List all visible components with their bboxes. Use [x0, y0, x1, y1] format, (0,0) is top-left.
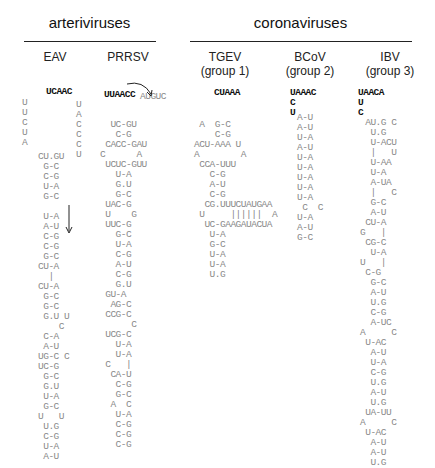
eav-loop-right: U A C C C U: [76, 100, 81, 160]
ibv-stem: AU.G C U.G U-ACU | U U-AA U-A A-UA | C G…: [360, 118, 396, 468]
virus-group: (group 3): [355, 64, 425, 78]
virus-name: BCoV: [275, 50, 345, 64]
virus-group: (group 1): [190, 64, 260, 78]
virus-name: EAV: [30, 50, 80, 64]
label-eav: EAV: [30, 50, 80, 64]
group-title-arteriviruses: arteriviruses: [22, 14, 157, 31]
bcov-stem: A-U A-U U-A A-U U-A U-A U-A U-A U-A C C …: [297, 113, 323, 243]
virus-name: PRRSV: [98, 50, 158, 64]
tgev-stem: A G-C C-G ACU-AAA U A A CCA-UUU C-G A-U …: [194, 120, 277, 280]
label-prrsv: PRRSV: [98, 50, 158, 64]
eav-loop-conserved: UCAAC: [46, 87, 72, 97]
label-ibv: IBV (group 3): [355, 50, 425, 78]
prrsv-arrow-icon: [125, 80, 155, 100]
eav-arrow-icon: [66, 205, 72, 235]
divider-coronaviruses: [190, 41, 412, 42]
tgev-loop-conserved: CUAAA: [214, 88, 240, 98]
divider-arteriviruses: [24, 41, 156, 42]
prrsv-stem: UC-GU C-G CACC-GAU C A UCUC-GUU U-A G.U …: [100, 120, 147, 450]
ibv-loop-conserved: UAACA U C: [358, 88, 384, 118]
eav-loop-left: U U C U A: [22, 98, 27, 148]
virus-name: TGEV: [190, 50, 260, 64]
label-tgev: TGEV (group 1): [190, 50, 260, 78]
virus-name: IBV: [355, 50, 425, 64]
eav-stem: CU.GU G-C C-G U-A G-C U-A A-U C-G C-G G-…: [38, 152, 69, 462]
virus-group: (group 2): [275, 64, 345, 78]
group-title-coronaviruses: coronaviruses: [188, 14, 413, 31]
label-bcov: BCoV (group 2): [275, 50, 345, 78]
